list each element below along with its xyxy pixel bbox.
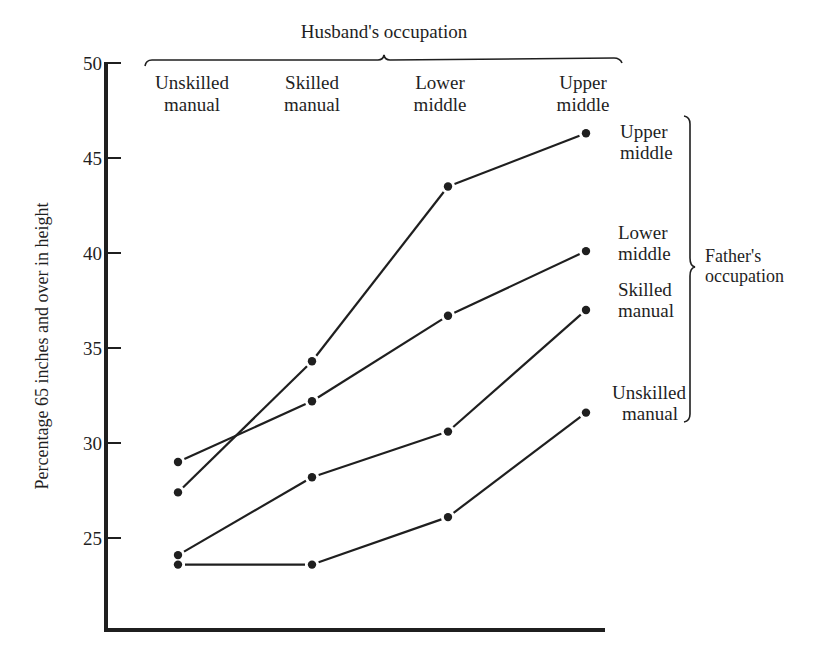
data-point bbox=[444, 427, 452, 435]
y-tick-label: 45 bbox=[83, 148, 102, 169]
series-label: Skilled bbox=[618, 279, 672, 300]
x-category-label: manual bbox=[284, 94, 340, 115]
data-point bbox=[444, 513, 452, 521]
axes bbox=[104, 62, 605, 631]
series-label: middle bbox=[620, 142, 673, 163]
y-tick-label: 35 bbox=[83, 338, 102, 359]
x-category-label: Skilled bbox=[285, 72, 339, 93]
series-label: manual bbox=[622, 403, 678, 424]
right-group-header: Father's occupation bbox=[684, 116, 784, 422]
series-segment bbox=[184, 481, 306, 552]
series-lower-middle bbox=[174, 247, 590, 466]
data-point bbox=[444, 182, 452, 190]
series-upper-middle bbox=[174, 129, 590, 496]
x-category-label: Lower bbox=[415, 72, 465, 93]
data-point bbox=[444, 312, 452, 320]
data-point bbox=[174, 551, 182, 559]
x-category-label: middle bbox=[557, 94, 610, 115]
data-point bbox=[582, 408, 590, 416]
data-point bbox=[582, 247, 590, 255]
series-segment bbox=[453, 315, 580, 427]
data-point bbox=[174, 488, 182, 496]
series-skilled-manual bbox=[174, 306, 590, 560]
y-tick-label: 25 bbox=[83, 528, 102, 549]
series-segment bbox=[319, 519, 442, 562]
father-occupation-label-line2: occupation bbox=[705, 266, 784, 286]
data-point bbox=[582, 129, 590, 137]
series-label: middle bbox=[618, 243, 671, 264]
x-category-label: Upper bbox=[559, 72, 607, 93]
data-point bbox=[174, 560, 182, 568]
top-brace bbox=[145, 55, 622, 66]
series-segment bbox=[319, 434, 442, 475]
data-point bbox=[308, 357, 316, 365]
series-label: Unskilled bbox=[612, 382, 686, 403]
x-category-label: manual bbox=[164, 94, 220, 115]
series-label: Lower bbox=[618, 222, 668, 243]
x-category-label: middle bbox=[414, 94, 467, 115]
data-point bbox=[582, 306, 590, 314]
y-tick-label: 40 bbox=[83, 243, 102, 264]
series-lines bbox=[174, 129, 590, 569]
y-tick-label: 50 bbox=[83, 53, 102, 74]
y-axis-label: Percentage 65 inches and over in height bbox=[32, 203, 52, 490]
data-point bbox=[174, 458, 182, 466]
y-ticks: 253035404550 bbox=[83, 53, 121, 549]
x-category-label: Unskilled bbox=[155, 72, 229, 93]
series-label: manual bbox=[618, 300, 674, 321]
y-tick-label: 30 bbox=[83, 433, 102, 454]
top-group-header: Husband's occupation bbox=[145, 21, 622, 66]
series-segment bbox=[454, 254, 579, 313]
series-unskilled-manual bbox=[174, 408, 590, 568]
father-occupation-label: Father's bbox=[705, 246, 761, 266]
x-category-labels: UnskilledmanualSkilledmanualLowermiddleU… bbox=[155, 72, 609, 115]
data-point bbox=[308, 397, 316, 405]
line-chart: Husband's occupation UnskilledmanualSkil… bbox=[0, 0, 839, 662]
right-brace bbox=[684, 116, 695, 422]
series-label: Upper bbox=[620, 121, 668, 142]
series-segment bbox=[454, 417, 581, 513]
data-point bbox=[308, 473, 316, 481]
series-labels: UppermiddleLowermiddleSkilledmanualUnski… bbox=[612, 121, 686, 424]
data-point bbox=[308, 560, 316, 568]
husband-occupation-label: Husband's occupation bbox=[301, 21, 468, 42]
series-segment bbox=[455, 136, 580, 184]
series-segment bbox=[183, 366, 307, 487]
series-segment bbox=[184, 404, 305, 459]
